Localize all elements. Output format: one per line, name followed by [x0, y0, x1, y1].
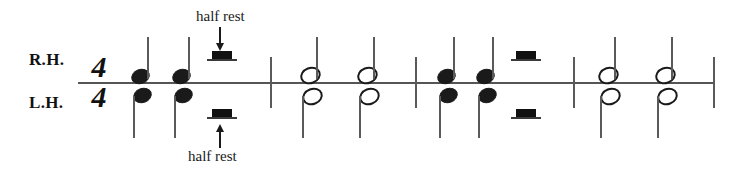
- note-stem: [147, 37, 149, 79]
- note-stem: [302, 96, 304, 138]
- barline-final: [713, 57, 715, 108]
- note-stem: [174, 96, 176, 138]
- half-rest-m1-lh: [207, 107, 237, 119]
- barline-after-measure-1: [270, 57, 272, 108]
- half-rest-m3-lh: [511, 107, 541, 119]
- half-rest-block: [212, 109, 232, 117]
- note-m4-lh-2: [655, 88, 681, 134]
- time-signature-denominator: 4: [86, 82, 112, 112]
- note-m4-rh-2: [655, 38, 681, 84]
- half-rest-ledger-line: [207, 117, 237, 119]
- notehead-hollow: [596, 64, 622, 87]
- note-m1-lh-1: [131, 88, 157, 134]
- note-stem: [600, 96, 602, 138]
- note-m2-rh-1: [300, 38, 326, 84]
- half-rest-block: [516, 51, 536, 59]
- right-hand-label: R.H.: [29, 50, 64, 70]
- half-rest-ledger-line: [511, 117, 541, 119]
- arrow-shaft: [219, 130, 221, 148]
- note-stem: [316, 37, 318, 79]
- note-stem: [671, 37, 673, 79]
- half-rest-ledger-line: [511, 59, 541, 61]
- half-rest-ledger-line: [207, 59, 237, 61]
- note-stem: [373, 37, 375, 79]
- barline-after-measure-2: [415, 57, 417, 108]
- note-m4-rh-1: [598, 38, 624, 84]
- note-stem: [478, 96, 480, 138]
- half-rest-block: [212, 51, 232, 59]
- music-notation-figure: R.H. L.H. 4 4: [0, 0, 741, 173]
- note-stem: [439, 96, 441, 138]
- notehead-hollow: [298, 64, 324, 87]
- arrow-down-icon: [214, 27, 226, 51]
- time-signature-numerator: 4: [86, 52, 112, 82]
- arrow-head: [216, 124, 224, 132]
- note-m3-lh-2: [476, 88, 502, 134]
- arrow-up-icon: [214, 124, 226, 148]
- half-rest-m3-rh: [511, 49, 541, 61]
- note-m1-lh-2: [172, 88, 198, 134]
- note-stem: [188, 37, 190, 79]
- half-rest-block: [516, 109, 536, 117]
- note-m2-lh-1: [300, 88, 326, 134]
- note-m3-lh-1: [437, 88, 463, 134]
- note-stem: [614, 37, 616, 79]
- half-rest-annotation-bottom-label: half rest: [188, 148, 237, 165]
- note-m2-lh-2: [357, 88, 383, 134]
- barline-after-measure-3: [573, 57, 575, 108]
- half-rest-annotation-top-label: half rest: [196, 8, 245, 25]
- note-m4-lh-1: [598, 88, 624, 134]
- note-stem: [133, 96, 135, 138]
- note-stem: [359, 96, 361, 138]
- left-hand-label: L.H.: [29, 93, 63, 113]
- note-m2-rh-2: [357, 38, 383, 84]
- note-m3-rh-1: [437, 38, 463, 84]
- note-m3-rh-2: [476, 38, 502, 84]
- note-m1-rh-2: [172, 38, 198, 84]
- note-stem: [453, 37, 455, 79]
- notehead-hollow: [653, 64, 679, 87]
- arrow-head: [216, 43, 224, 51]
- note-m1-rh-1: [131, 38, 157, 84]
- time-signature: 4 4: [86, 52, 112, 114]
- note-stem: [492, 37, 494, 79]
- note-stem: [657, 96, 659, 138]
- notehead-hollow: [355, 64, 381, 87]
